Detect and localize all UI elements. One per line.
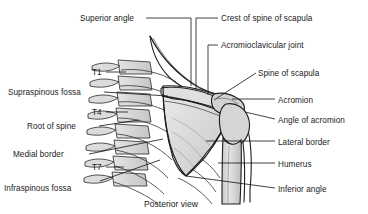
label-angle-of-acromion: Angle of acromion	[278, 116, 345, 125]
leader-acromioclavicular-joint	[208, 45, 218, 95]
label-acromioclavicular-joint: Acromioclavicular joint	[221, 41, 304, 50]
label-humerus: Humerus	[278, 160, 312, 169]
scapula-illustration	[0, 0, 368, 214]
label-t4: T4	[92, 108, 102, 117]
label-inferior-angle: Inferior angle	[278, 185, 327, 194]
leader-crest-of-spine-of-scapula	[196, 18, 218, 90]
label-lateral-border: Lateral border	[278, 138, 330, 147]
label-t1: T1	[92, 68, 102, 77]
leader-angle-of-acromion	[245, 112, 275, 119]
label-t7: T7	[92, 163, 102, 172]
anatomy-figure: Superior angleT1Supraspinous fossaT4Root…	[0, 0, 368, 214]
label-medial-border: Medial border	[13, 150, 64, 159]
label-infraspinous-fossa: Infraspinous fossa	[4, 184, 71, 193]
label-supraspinous-fossa: Supraspinous fossa	[8, 88, 81, 97]
label-root-of-spine: Root of spine	[27, 122, 76, 131]
label-acromion: Acromion	[278, 96, 313, 105]
label-spine-of-scapula: Spine of scapula	[258, 69, 319, 78]
label-crest-of-spine-of-scapula: Crest of spine of scapula	[221, 14, 312, 23]
label-superior-angle: Superior angle	[80, 14, 134, 23]
figure-caption: Posterior view	[144, 199, 198, 209]
leader-spine-of-scapula	[214, 73, 256, 100]
